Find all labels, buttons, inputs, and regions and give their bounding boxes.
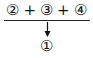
result-term: ① xyxy=(0,38,93,55)
term-3: ③ xyxy=(40,1,53,19)
plus-operator: + xyxy=(23,1,36,19)
term-2: ② xyxy=(6,1,19,19)
down-arrow-icon xyxy=(44,22,51,37)
sum-expression: ②+③+④ xyxy=(0,1,93,19)
plus-operator: + xyxy=(57,1,70,19)
term-4: ④ xyxy=(74,1,87,19)
divider-line xyxy=(4,20,90,21)
